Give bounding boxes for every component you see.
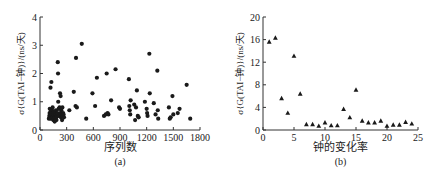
panel-b-axes [263,17,418,130]
data-point [397,122,402,126]
data-point [298,91,303,95]
data-point [188,117,192,121]
data-point [74,56,78,60]
data-point [106,112,110,116]
data-point [60,105,64,109]
data-point [80,42,84,46]
data-point [335,123,340,127]
panel-a-ticks: 030060090012001500180001234 [32,12,210,144]
data-point [403,119,408,123]
data-point [90,91,94,95]
data-point [366,120,371,124]
data-point [304,122,309,126]
x-tick-label: 600 [86,132,101,143]
data-point [129,98,133,102]
x-tick-label: 5 [292,132,297,143]
y-tick-label: 16 [250,34,260,45]
data-point [127,77,131,81]
data-point [185,83,189,87]
y-tick-label: 8 [255,79,260,90]
data-point [292,53,297,57]
y-tick-label: 0 [255,125,260,136]
data-point [153,112,157,116]
data-point [279,96,284,100]
data-point [67,108,71,112]
data-point [329,123,334,127]
data-point [148,91,152,95]
data-point [176,111,180,115]
data-point [109,98,113,102]
y-tick-label: 3 [32,40,37,51]
data-point [267,39,272,43]
data-point [372,120,377,124]
x-tick-label: 20 [382,132,392,143]
data-point [152,101,156,105]
panel-b-ticks: 0510152025048121620 [250,12,423,144]
data-point [316,123,321,127]
data-point [378,118,383,122]
x-tick-label: 1200 [137,132,157,143]
data-point [273,35,278,39]
panel-b-sublabel: (b) [335,156,347,168]
data-point [391,122,396,126]
data-point [54,118,58,122]
y-tick-label: 2 [32,68,37,79]
data-point [72,90,76,94]
data-point [118,107,122,111]
data-point [128,108,132,112]
panel-a-xlabel: 序列数 [104,140,137,154]
data-point [145,114,149,118]
x-tick-label: 1500 [163,132,183,143]
data-point [156,108,160,112]
panel-a-points [47,42,193,124]
panel-a-sublabel: (a) [114,156,125,168]
data-point [177,107,181,111]
data-point [134,105,138,109]
data-point [56,71,60,75]
y-tick-label: 4 [255,102,260,113]
data-point [105,71,109,75]
data-point [113,67,117,71]
y-tick-label: 20 [250,12,260,23]
y-tick-label: 4 [32,12,37,23]
data-point [48,86,52,90]
data-point [285,110,290,114]
data-point [75,105,79,109]
data-point [167,105,171,109]
panel-a-ylabel: σ{G(TAI−钟)}/(ns/天) [15,32,26,114]
data-point [341,106,346,110]
data-point [133,118,137,122]
data-point [145,107,149,111]
y-tick-label: 1 [32,96,37,107]
data-point [310,122,315,126]
data-point [56,100,60,104]
data-point [143,100,147,104]
data-point [360,118,365,122]
data-point [135,88,139,92]
data-point [171,112,175,116]
x-tick-label: 0 [38,132,43,143]
figure: 030060090012001500180001234 序列数 (a) σ{G(… [0,0,434,174]
data-point [354,87,359,91]
data-point [84,117,88,121]
data-point [62,115,66,119]
panel-b-xlabel: 钟的变化率 [313,140,368,154]
y-tick-label: 0 [32,125,37,136]
data-point [128,112,132,116]
data-point [137,115,141,119]
x-tick-label: 300 [59,132,74,143]
y-tick-label: 12 [250,57,260,68]
data-point [409,121,414,125]
x-tick-label: 1800 [190,132,210,143]
data-point [323,120,328,124]
data-point [59,94,63,98]
x-tick-label: 0 [261,132,266,143]
panel-a: 030060090012001500180001234 序列数 (a) σ{G(… [15,12,210,169]
data-point [51,105,55,109]
data-point [385,123,390,127]
panel-b-ylabel: σ{G(TAI−钟)}/(ns/天) [234,32,245,114]
data-point [56,60,60,64]
data-point [156,117,160,121]
panel-b-points [267,35,414,128]
x-tick-label: 25 [413,132,423,143]
